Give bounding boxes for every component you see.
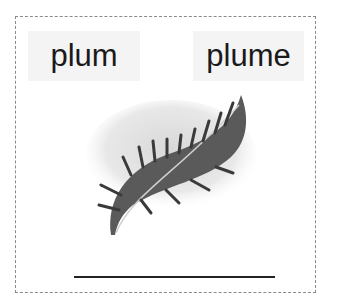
worksheet-card: plum plume	[15, 16, 316, 293]
answer-line[interactable]	[74, 276, 275, 278]
option-plume[interactable]: plume	[193, 31, 304, 81]
option-plum[interactable]: plum	[28, 31, 140, 81]
feather-icon	[71, 85, 261, 240]
